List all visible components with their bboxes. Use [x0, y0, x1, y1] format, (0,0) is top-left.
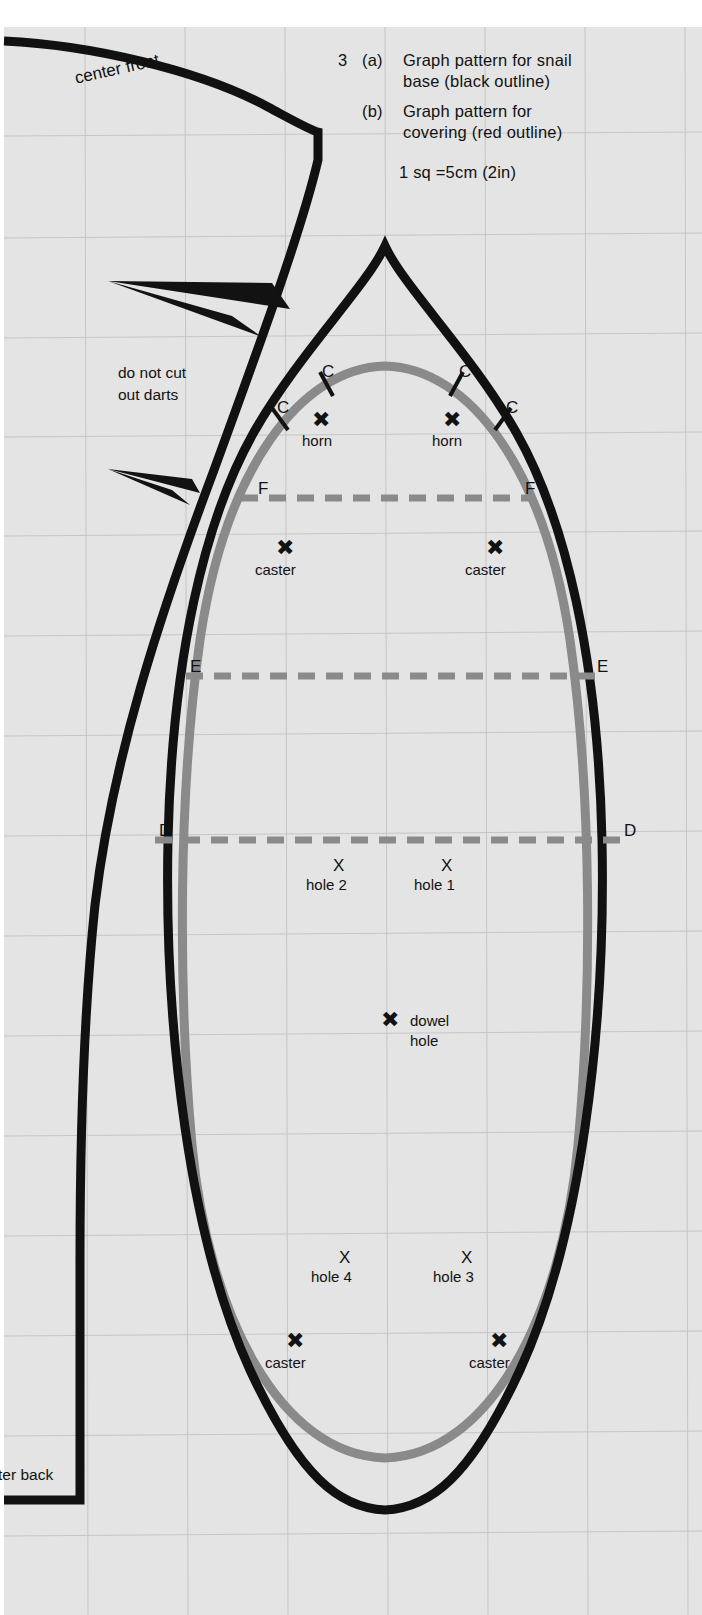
caster-lower-left-x-icon: ✖: [286, 1330, 304, 1352]
caption-a-line1: Graph pattern for snail: [403, 50, 572, 70]
caster-upper-left-x-icon: ✖: [276, 537, 294, 559]
caster-lower-left-label: caster: [265, 1354, 306, 1372]
base-outline-black: [0, 0, 702, 1615]
hole-1-label: hole 1: [414, 876, 455, 894]
notch-label-c-outer-right: C: [506, 398, 518, 419]
caption-b-line1: Graph pattern for: [403, 101, 532, 121]
horn-left-x-icon: ✖: [312, 409, 330, 431]
caster-upper-right-label: caster: [465, 561, 506, 579]
caption-a-marker: (a): [362, 50, 383, 70]
horn-right-label: horn: [432, 432, 462, 450]
caster-upper-left-label: caster: [255, 561, 296, 579]
hole-2-label: hole 2: [306, 876, 347, 894]
hole-4-label: hole 4: [311, 1268, 352, 1286]
notch-label-c-outer-left: C: [277, 398, 289, 419]
hole-4-x-icon: X: [339, 1249, 350, 1266]
horn-right-x-icon: ✖: [443, 409, 461, 431]
dowel-hole-label-line2: hole: [410, 1032, 438, 1050]
notch-label-c-inner-left: C: [322, 362, 334, 383]
caption-b-marker: (b): [362, 101, 383, 121]
caption-number: 3: [338, 50, 347, 70]
guide-label-e-left: E: [190, 657, 201, 678]
darts-note-line2: out darts: [118, 386, 178, 405]
horn-left-label: horn: [302, 432, 332, 450]
caption-a-line2: base (black outline): [403, 71, 550, 91]
caster-lower-right-label: caster: [469, 1354, 510, 1372]
caption-b-line2: covering (red outline): [403, 122, 562, 142]
guide-label-e-right: E: [597, 657, 608, 678]
guide-label-d-right: D: [624, 821, 636, 842]
caster-upper-right-x-icon: ✖: [486, 537, 504, 559]
guide-label-d-left: D: [159, 821, 171, 842]
guide-label-f-right: F: [525, 479, 535, 500]
darts-note-line1: do not cut: [118, 364, 186, 383]
guide-label-f-left: F: [258, 479, 268, 500]
hole-1-x-icon: X: [441, 857, 452, 874]
dowel-hole-label-line1: dowel: [410, 1012, 449, 1030]
hole-2-x-icon: X: [333, 857, 344, 874]
caster-lower-right-x-icon: ✖: [490, 1330, 508, 1352]
notch-label-c-inner-right: C: [459, 362, 471, 383]
hole-3-label: hole 3: [433, 1268, 474, 1286]
figure-canvas: 3 (a) Graph pattern for snail base (blac…: [0, 0, 702, 1615]
dowel-hole-x-icon: ✖: [381, 1009, 399, 1031]
center-back-label: ter back: [0, 1466, 53, 1485]
caption-scale: 1 sq =5cm (2in): [399, 162, 516, 182]
hole-3-x-icon: X: [461, 1249, 472, 1266]
